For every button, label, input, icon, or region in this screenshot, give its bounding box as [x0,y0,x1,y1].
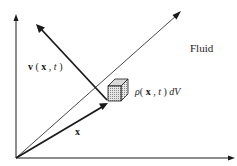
vertical-axis [14,14,19,158]
comma: , [46,61,54,72]
position-label: x [75,126,80,137]
diagram-canvas [0,0,237,166]
paren-close: ) [57,61,63,72]
fluid-region-label: Fluid [190,42,213,54]
arrowhead-icon [14,14,19,21]
volume-differential: dV [169,86,180,97]
velocity-label: v ( x , t ) [28,61,62,72]
horizontal-axis [16,156,235,161]
volume-element-cube [108,79,128,101]
arrowhead-icon [228,156,235,161]
position-vector-x [16,103,108,158]
mass-element-label: ρ( x , t ) dV [135,86,180,97]
diagonal-axis [16,11,181,158]
